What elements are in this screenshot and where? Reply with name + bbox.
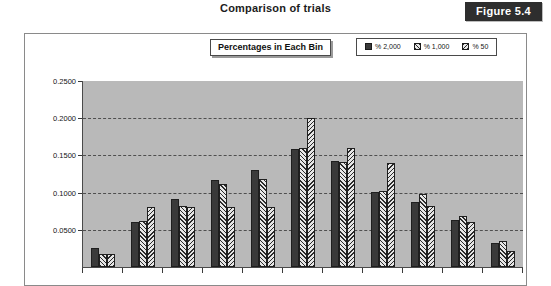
y-axis-tick-label: 0.2000: [30, 114, 76, 123]
bar: [267, 207, 275, 267]
legend-item-2: % 50: [462, 43, 488, 50]
bar: [499, 241, 507, 267]
x-axis-tick-mark: [242, 268, 243, 273]
legend-swatch-icon: [365, 43, 372, 50]
legend-swatch-icon: [462, 43, 469, 50]
bar: [419, 194, 427, 267]
x-axis-tick-mark: [322, 268, 323, 273]
bar: [451, 220, 459, 267]
x-axis-tick-mark: [202, 268, 203, 273]
figure-number-badge: Figure 5.4: [465, 2, 542, 21]
legend-item-1: % 1,000: [414, 43, 450, 50]
x-axis-tick-mark: [442, 268, 443, 273]
bar-group: [171, 199, 195, 267]
bar: [139, 221, 147, 267]
bar: [507, 251, 515, 267]
bar: [459, 216, 467, 267]
bar: [259, 179, 267, 267]
y-axis-tick-label: 0.1500: [30, 151, 76, 160]
bar: [299, 148, 307, 267]
bar: [107, 254, 115, 267]
bar-group: [331, 148, 355, 267]
figure-panel: Percentages in Each Bin % 2,000 % 1,000 …: [24, 33, 527, 286]
bar: [91, 248, 99, 267]
bar-group: [131, 207, 155, 267]
y-axis-tick-mark: [78, 155, 82, 156]
bar: [219, 184, 227, 267]
bar-group: [91, 248, 115, 267]
bar-group: [451, 216, 475, 267]
bar: [427, 206, 435, 267]
plot-caption: Percentages in Each Bin: [210, 39, 331, 56]
bar-group: [371, 163, 395, 267]
y-axis-tick-label: 0.0500: [30, 225, 76, 234]
y-axis-tick-mark: [78, 193, 82, 194]
bar: [99, 254, 107, 267]
bar: [387, 163, 395, 267]
bar-group: [211, 180, 235, 267]
bar: [411, 202, 419, 267]
legend-swatch-icon: [414, 43, 421, 50]
bar-group: [491, 241, 515, 267]
y-axis-tick-mark: [78, 81, 82, 82]
x-axis-tick-mark: [522, 268, 523, 273]
legend-item-0: % 2,000: [365, 43, 401, 50]
bar: [291, 149, 299, 267]
bar: [251, 170, 259, 267]
bar-group: [411, 194, 435, 267]
y-axis-tick-mark: [78, 230, 82, 231]
plot-area: [82, 81, 523, 268]
figure-header: Comparison of trials Figure 5.4: [0, 0, 551, 26]
y-axis-tick-mark: [78, 118, 82, 119]
x-axis-tick-mark: [282, 268, 283, 273]
y-axis-tick-label: 0.2500: [30, 77, 76, 86]
bar: [171, 199, 179, 267]
bar: [379, 191, 387, 267]
bar-group: [291, 118, 315, 267]
bar: [467, 222, 475, 267]
legend-label: % 2,000: [375, 43, 401, 50]
legend-label: % 1,000: [424, 43, 450, 50]
bar: [371, 192, 379, 267]
bar: [491, 243, 499, 267]
x-axis-tick-mark: [482, 268, 483, 273]
bar: [339, 162, 347, 267]
y-axis-tick-label: 0.1000: [30, 188, 76, 197]
bar: [227, 207, 235, 267]
bar: [211, 180, 219, 267]
x-axis-tick-mark: [122, 268, 123, 273]
bar: [131, 222, 139, 267]
bar: [307, 118, 315, 267]
x-axis-tick-mark: [82, 268, 83, 273]
x-axis-tick-mark: [402, 268, 403, 273]
bar: [147, 207, 155, 267]
x-axis-tick-mark: [162, 268, 163, 273]
bar: [347, 148, 355, 267]
bar-group: [251, 170, 275, 267]
bar: [179, 206, 187, 267]
bar: [331, 161, 339, 267]
bar: [187, 207, 195, 267]
legend-label: % 50: [472, 43, 488, 50]
chart-legend: % 2,000 % 1,000 % 50: [356, 38, 497, 56]
x-axis-tick-mark: [362, 268, 363, 273]
